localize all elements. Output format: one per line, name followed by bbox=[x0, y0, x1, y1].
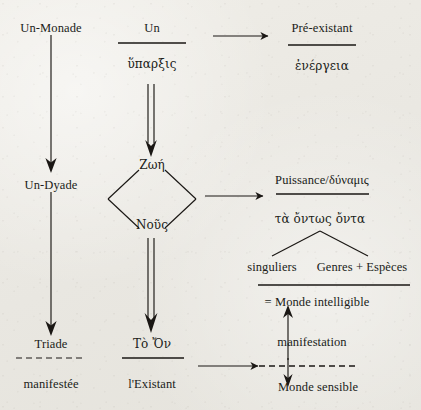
node-manifestation: manifestation bbox=[277, 336, 346, 349]
connector-un-monade-to-un-dyade bbox=[45, 35, 56, 173]
node-manifestee: manifestée bbox=[23, 378, 78, 391]
node-puissance-dynamis: Puissance/δύναμις bbox=[275, 174, 369, 187]
node-l-existant: l'Existant bbox=[128, 378, 176, 391]
connector-ta-ontos-onta-branch bbox=[272, 231, 368, 256]
node-energeia: ἐνέργεια bbox=[295, 60, 349, 72]
node-singuliers: singuliers bbox=[247, 261, 297, 274]
node-monde-intelligible: = Monde intelligible bbox=[265, 296, 370, 309]
node-un-dyade: Un-Dyade bbox=[25, 179, 78, 192]
node-pre-existant: Pré-existant bbox=[292, 22, 353, 35]
node-triade: Triade bbox=[35, 338, 68, 351]
node-zoe: Ζωή bbox=[139, 159, 165, 171]
connector-nous-to-to-on bbox=[145, 238, 158, 333]
connector-manifestation-up bbox=[283, 305, 293, 360]
node-un-monade: Un-Monade bbox=[20, 22, 81, 35]
node-nous: Νοῦς bbox=[136, 219, 168, 231]
node-hyparxis: ὕπαρξις bbox=[127, 58, 176, 70]
connector-un-dyade-to-triade bbox=[45, 192, 56, 336]
node-to-on: Τὸ Ὄν bbox=[133, 338, 171, 350]
node-ta-ontos-onta: τὰ ὄντως ὄντα bbox=[275, 213, 366, 225]
emanation-diagram: Un-Monade Un-Dyade Triade manifestée Un … bbox=[0, 0, 421, 410]
node-monde-sensible: Monde sensible bbox=[278, 381, 358, 394]
node-un: Un bbox=[144, 22, 159, 35]
node-genres-especes: Genres + Espèces bbox=[317, 261, 408, 274]
connector-hyparxis-to-zoe bbox=[145, 84, 157, 157]
